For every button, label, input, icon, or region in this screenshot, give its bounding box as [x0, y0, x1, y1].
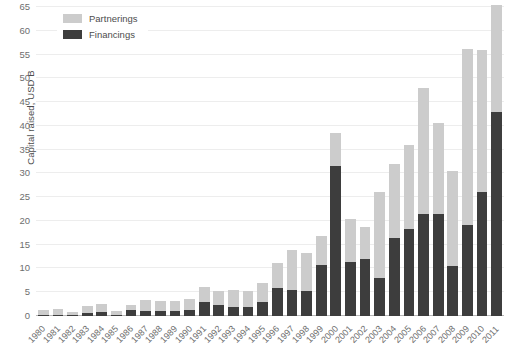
- bar-segment-partnerings[interactable]: [491, 5, 502, 112]
- bar-stack[interactable]: [316, 236, 327, 316]
- bar-segment-partnerings[interactable]: [243, 291, 254, 306]
- bar-segment-partnerings[interactable]: [213, 291, 224, 304]
- bar-group[interactable]: [124, 7, 139, 316]
- bar-stack[interactable]: [155, 301, 166, 316]
- bar-group[interactable]: [431, 7, 446, 316]
- bar-group[interactable]: [329, 7, 344, 316]
- bar-segment-financings[interactable]: [111, 315, 122, 316]
- bar-group[interactable]: [460, 7, 475, 316]
- bar-group[interactable]: [387, 7, 402, 316]
- bar-segment-partnerings[interactable]: [228, 290, 239, 306]
- bar-segment-financings[interactable]: [213, 305, 224, 316]
- bar-segment-partnerings[interactable]: [374, 192, 385, 278]
- bar-segment-partnerings[interactable]: [287, 250, 298, 289]
- bar-group[interactable]: [255, 7, 270, 316]
- bar-segment-financings[interactable]: [140, 311, 151, 316]
- bar-stack[interactable]: [462, 49, 473, 316]
- bar-segment-financings[interactable]: [345, 262, 356, 316]
- bar-group[interactable]: [402, 7, 417, 316]
- bar-segment-partnerings[interactable]: [170, 301, 181, 311]
- bar-stack[interactable]: [345, 219, 356, 316]
- bar-segment-financings[interactable]: [53, 315, 64, 316]
- bar-group[interactable]: [358, 7, 373, 316]
- bar-segment-financings[interactable]: [82, 313, 93, 316]
- bar-segment-financings[interactable]: [38, 315, 49, 316]
- legend-item[interactable]: Partnerings: [63, 13, 138, 24]
- bar-group[interactable]: [475, 7, 490, 316]
- bar-segment-partnerings[interactable]: [140, 300, 151, 310]
- bar-group[interactable]: [446, 7, 461, 316]
- bar-segment-financings[interactable]: [184, 310, 195, 316]
- bar-stack[interactable]: [433, 123, 444, 316]
- bar-stack[interactable]: [301, 253, 312, 316]
- legend-item[interactable]: Financings: [63, 29, 138, 40]
- bar-group[interactable]: [314, 7, 329, 316]
- bar-stack[interactable]: [53, 309, 64, 316]
- bar-group[interactable]: [270, 7, 285, 316]
- bar-stack[interactable]: [374, 192, 385, 316]
- bar-segment-financings[interactable]: [447, 266, 458, 316]
- bar-segment-financings[interactable]: [287, 290, 298, 316]
- bar-group[interactable]: [197, 7, 212, 316]
- bar-stack[interactable]: [330, 133, 341, 316]
- bar-group[interactable]: [36, 7, 51, 316]
- bar-segment-partnerings[interactable]: [257, 283, 268, 302]
- bar-group[interactable]: [285, 7, 300, 316]
- bar-stack[interactable]: [213, 291, 224, 316]
- bar-segment-financings[interactable]: [257, 302, 268, 316]
- bar-group[interactable]: [226, 7, 241, 316]
- bar-segment-partnerings[interactable]: [389, 164, 400, 238]
- bar-segment-partnerings[interactable]: [155, 301, 166, 311]
- bar-stack[interactable]: [389, 164, 400, 316]
- bar-segment-partnerings[interactable]: [199, 287, 210, 302]
- bar-segment-partnerings[interactable]: [82, 306, 93, 313]
- bar-stack[interactable]: [67, 312, 78, 316]
- bar-stack[interactable]: [272, 263, 283, 316]
- bar-stack[interactable]: [184, 299, 195, 316]
- bar-segment-partnerings[interactable]: [462, 49, 473, 225]
- bar-segment-financings[interactable]: [316, 265, 327, 316]
- bar-segment-financings[interactable]: [389, 238, 400, 316]
- bar-stack[interactable]: [243, 291, 254, 316]
- bar-segment-partnerings[interactable]: [345, 219, 356, 262]
- bar-segment-financings[interactable]: [67, 315, 78, 316]
- bar-group[interactable]: [489, 7, 504, 316]
- bar-group[interactable]: [212, 7, 227, 316]
- bar-group[interactable]: [95, 7, 110, 316]
- bar-group[interactable]: [153, 7, 168, 316]
- bar-segment-financings[interactable]: [272, 288, 283, 316]
- bar-stack[interactable]: [170, 301, 181, 316]
- bar-stack[interactable]: [82, 306, 93, 316]
- bar-group[interactable]: [80, 7, 95, 316]
- bar-segment-financings[interactable]: [170, 311, 181, 316]
- bar-stack[interactable]: [447, 171, 458, 316]
- bar-segment-financings[interactable]: [228, 307, 239, 317]
- bar-segment-partnerings[interactable]: [404, 145, 415, 230]
- bar-stack[interactable]: [38, 310, 49, 316]
- bar-stack[interactable]: [199, 287, 210, 316]
- bar-segment-financings[interactable]: [243, 307, 254, 317]
- bar-stack[interactable]: [360, 227, 371, 316]
- bar-stack[interactable]: [491, 5, 502, 316]
- bar-segment-financings[interactable]: [330, 166, 341, 316]
- bar-stack[interactable]: [140, 300, 151, 316]
- bar-stack[interactable]: [477, 50, 488, 316]
- bar-segment-financings[interactable]: [301, 291, 312, 316]
- bar-stack[interactable]: [111, 311, 122, 316]
- bar-segment-partnerings[interactable]: [418, 88, 429, 214]
- bar-group[interactable]: [372, 7, 387, 316]
- bar-segment-partnerings[interactable]: [447, 171, 458, 266]
- bar-group[interactable]: [168, 7, 183, 316]
- bar-group[interactable]: [51, 7, 66, 316]
- bar-segment-financings[interactable]: [155, 311, 166, 316]
- bar-segment-partnerings[interactable]: [96, 304, 107, 312]
- bar-segment-partnerings[interactable]: [184, 299, 195, 310]
- bar-segment-financings[interactable]: [418, 214, 429, 316]
- bar-segment-financings[interactable]: [404, 229, 415, 316]
- bar-stack[interactable]: [126, 305, 137, 316]
- bar-group[interactable]: [182, 7, 197, 316]
- bar-segment-financings[interactable]: [477, 192, 488, 316]
- bar-segment-financings[interactable]: [360, 259, 371, 316]
- bar-segment-partnerings[interactable]: [272, 263, 283, 288]
- bar-stack[interactable]: [257, 283, 268, 316]
